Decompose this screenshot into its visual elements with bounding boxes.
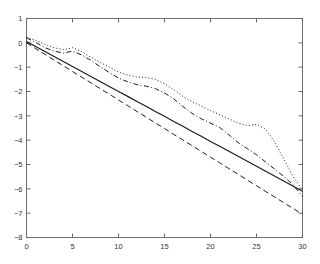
y-tick-label: −8 [14,233,23,242]
x-tick-label: 20 [206,242,214,251]
x-tick-label: 25 [252,242,260,251]
figure-container: 05101520253010−1−2−3−4−5−6−7−8 [0,0,320,264]
series-dash-dot-line [27,38,303,197]
y-tick-label: −5 [14,160,23,169]
x-tick-label: 0 [24,242,28,251]
chart-plot: 05101520253010−1−2−3−4−5−6−7−8 [0,0,320,264]
y-tick-label: 1 [18,14,22,23]
x-tick-label: 10 [114,242,122,251]
tick-label-group: 05101520253010−1−2−3−4−5−6−7−8 [14,14,307,250]
y-tick-label: −2 [14,87,23,96]
y-tick-label: −1 [14,63,23,72]
series-group [27,37,303,214]
y-tick-label: −7 [14,209,23,218]
series-dotted-line [27,37,303,190]
x-tick-label: 30 [298,242,306,251]
y-tick-label: −3 [14,112,23,121]
x-tick-label: 15 [160,242,168,251]
series-dashed-line [27,43,303,215]
x-tick-label: 5 [70,242,74,251]
y-tick-label: −4 [14,136,23,145]
y-tick-label: −6 [14,185,23,194]
series-solid-line [27,42,303,192]
y-tick-label: 0 [18,39,22,48]
